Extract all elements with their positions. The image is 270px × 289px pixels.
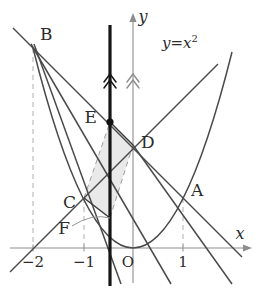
point-label-F: F (58, 218, 70, 238)
origin-label: O (122, 253, 134, 271)
curve-equation-equals: = (171, 34, 184, 52)
point-marker-E (106, 118, 113, 125)
x-axis-arrowhead (243, 244, 252, 251)
point-label-D: D (141, 132, 155, 152)
tick-label-minus2: −2 (22, 253, 44, 271)
geometry-figure: B E D A C F −2 −1 1 O x y y=x2 (0, 0, 270, 289)
tick-label-minus1: −1 (73, 253, 95, 271)
point-label-E: E (85, 107, 97, 127)
point-label-C: C (63, 192, 76, 212)
figure-root: B E D A C F −2 −1 1 O x y y=x2 (0, 0, 270, 289)
line-B-to-A-extended (13, 28, 242, 257)
straight-lines-group (10, 28, 242, 284)
f-leader-line (72, 217, 110, 226)
x-axis-label: x (235, 224, 244, 243)
point-label-B: B (40, 24, 53, 44)
curve-equation-exponent: 2 (192, 33, 198, 44)
curve-equation-label: y=x2 (161, 33, 198, 52)
point-label-A: A (190, 180, 204, 200)
y-axis-arrowhead (129, 13, 136, 22)
y-axis-label: y (137, 7, 148, 26)
tick-label-one: 1 (178, 253, 188, 271)
